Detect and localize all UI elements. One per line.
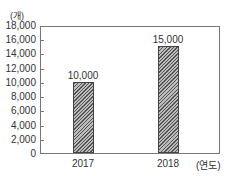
- y-tick-label: 18,000: [5, 21, 36, 31]
- x-unit-label: (연도): [196, 157, 221, 172]
- x-tick-label: 2018: [148, 158, 188, 169]
- y-tick-mark: [41, 69, 44, 70]
- y-tick-mark: [41, 140, 44, 141]
- y-tick-label: 0: [30, 149, 36, 159]
- plot-area: [40, 26, 220, 154]
- y-tick-label: 10,000: [5, 78, 36, 88]
- bar-2017: [73, 82, 94, 153]
- bar-2018: [158, 46, 179, 153]
- y-tick-label: 14,000: [5, 49, 36, 59]
- y-tick-mark: [41, 83, 44, 84]
- y-tick-label: 16,000: [5, 35, 36, 45]
- y-tick-mark: [41, 54, 44, 55]
- bar-value-label: 10,000: [63, 70, 103, 81]
- x-tick-label: 2017: [63, 158, 103, 169]
- y-tick-label: 2,000: [11, 135, 36, 145]
- y-tick-mark: [41, 97, 44, 98]
- y-tick-label: 8,000: [11, 92, 36, 102]
- y-tick-label: 12,000: [5, 64, 36, 74]
- y-tick-mark: [41, 126, 44, 127]
- y-tick-label: 4,000: [11, 121, 36, 131]
- y-tick-label: 6,000: [11, 106, 36, 116]
- y-tick-mark: [41, 111, 44, 112]
- y-tick-mark: [41, 40, 44, 41]
- bar-value-label: 15,000: [148, 34, 188, 45]
